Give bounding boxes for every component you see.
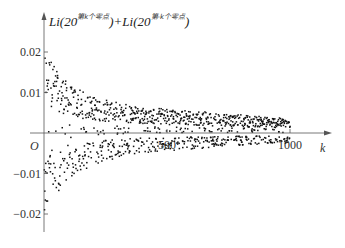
y-tick-label: −0.01: [13, 167, 41, 181]
origin-label: O: [30, 139, 39, 153]
svg-text:Li(20第k个零点)+Li(20第-k个零点): Li(20第k个零点)+Li(20第-k个零点): [48, 13, 189, 29]
y-axis-label: Li(20第k个零点)+Li(20第-k个零点): [48, 13, 189, 29]
y-tick-label: 0.02: [20, 45, 41, 59]
x-axis-label: k: [320, 141, 326, 155]
scatter-chart: 0.020.01−0.01−0.02 5001000 O k Li(20第k个零…: [0, 0, 345, 248]
y-axis-arrow-icon: [42, 12, 47, 20]
x-axis-arrow-icon: [324, 131, 332, 136]
x-tick-label: 1000: [278, 138, 302, 152]
x-tick-label: 500: [158, 138, 176, 152]
y-tick-label: −0.02: [13, 207, 41, 221]
data-points: [44, 57, 291, 210]
y-tick-label: 0.01: [20, 86, 41, 100]
